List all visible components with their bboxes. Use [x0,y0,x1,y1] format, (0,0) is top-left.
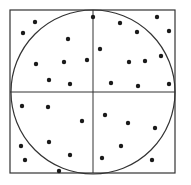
point-dot [33,20,37,24]
point-dot [66,37,70,41]
point-dot [135,30,139,34]
point-dot [126,121,130,125]
point-dot [109,81,113,85]
point-dot [46,105,50,109]
point-dot [155,15,159,19]
point-dot [85,58,89,62]
point-dot [159,54,163,58]
point-dot [103,113,107,117]
point-dot [119,144,123,148]
point-dot [20,104,24,108]
point-dot [153,126,157,130]
monte-carlo-diagram [0,0,191,185]
point-dot [68,82,72,86]
point-dot [167,82,171,86]
point-dot [68,153,72,157]
point-dot [19,144,23,148]
point-dot [47,78,51,82]
point-dot [150,158,154,162]
point-dot [62,60,66,64]
point-dot [127,60,131,64]
point-dot [21,31,25,35]
point-dot [143,59,147,63]
point-dot [100,156,104,160]
point-dot [47,140,51,144]
point-dot [91,15,95,19]
point-dot [118,21,122,25]
point-dot [80,119,84,123]
point-dot [23,158,27,162]
point-dot [34,62,38,66]
random-points [19,15,171,173]
point-dot [136,84,140,88]
point-dot [98,47,102,51]
point-dot [167,29,171,33]
point-dot [57,169,61,173]
